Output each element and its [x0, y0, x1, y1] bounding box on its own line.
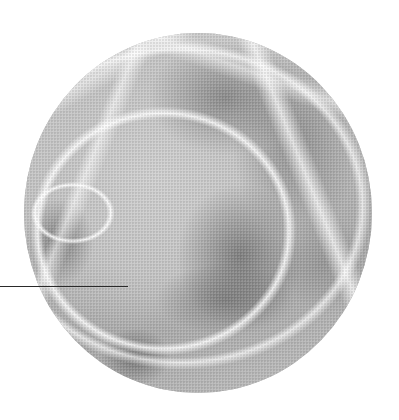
photo-halftone-grain	[24, 33, 372, 393]
water-caustics-photo	[24, 33, 372, 393]
callout-leader-line	[0, 286, 128, 287]
